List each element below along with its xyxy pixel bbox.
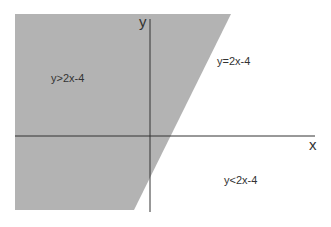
inequality-graph: y x y>2x-4 y=2x-4 y<2x-4 <box>0 0 331 227</box>
region-below-label: y<2x-4 <box>224 175 257 186</box>
boundary-line-label: y=2x-4 <box>217 56 250 67</box>
y-axis-label: y <box>139 14 147 29</box>
graph-svg <box>0 0 331 227</box>
shaded-region <box>15 14 231 210</box>
region-above-label: y>2x-4 <box>51 73 84 84</box>
x-axis-label: x <box>309 137 317 152</box>
